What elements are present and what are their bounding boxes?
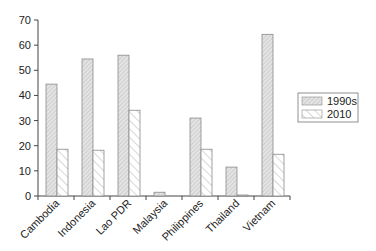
bar-2010-indonesia <box>93 150 104 196</box>
y-axis: 010203040506070 <box>19 14 38 202</box>
y-tick-label: 30 <box>19 115 31 127</box>
bar-2010-vietnam <box>273 154 284 196</box>
y-tick-label: 50 <box>19 64 31 76</box>
x-category-label: Vietnam <box>241 197 278 234</box>
legend-label-1990s: 1990s <box>327 95 357 107</box>
bar-1990s-cambodia <box>46 84 57 196</box>
bar-1990s-lao-pdr <box>118 55 129 196</box>
bar-2010-thailand <box>237 195 248 196</box>
legend-swatch-1990s <box>302 97 322 105</box>
y-tick-label: 60 <box>19 39 31 51</box>
bar-1990s-indonesia <box>82 59 93 196</box>
x-category-label: Indonesia <box>55 196 98 239</box>
legend: 1990s2010 <box>298 93 358 122</box>
x-category-label: Lao PDR <box>93 197 133 237</box>
bar-1990s-philippines <box>190 118 201 196</box>
x-axis: CambodiaIndonesiaLao PDRMalaysiaPhilippi… <box>17 196 290 243</box>
bars <box>46 34 284 196</box>
y-tick-label: 0 <box>25 190 31 202</box>
y-tick-label: 20 <box>19 140 31 152</box>
bar-2010-lao-pdr <box>129 110 140 196</box>
legend-label-2010: 2010 <box>327 108 351 120</box>
bar-chart: 010203040506070 CambodiaIndonesiaLao PDR… <box>0 0 376 251</box>
legend-swatch-2010 <box>302 110 322 118</box>
x-category-label: Cambodia <box>17 196 62 241</box>
bar-2010-cambodia <box>57 149 68 196</box>
bar-1990s-thailand <box>226 167 237 196</box>
bar-2010-philippines <box>201 149 212 196</box>
y-tick-label: 70 <box>19 14 31 26</box>
bar-1990s-vietnam <box>262 34 273 196</box>
y-tick-label: 40 <box>19 89 31 101</box>
bar-1990s-malaysia <box>154 192 165 196</box>
y-tick-label: 10 <box>19 165 31 177</box>
x-category-label: Thailand <box>203 197 241 235</box>
